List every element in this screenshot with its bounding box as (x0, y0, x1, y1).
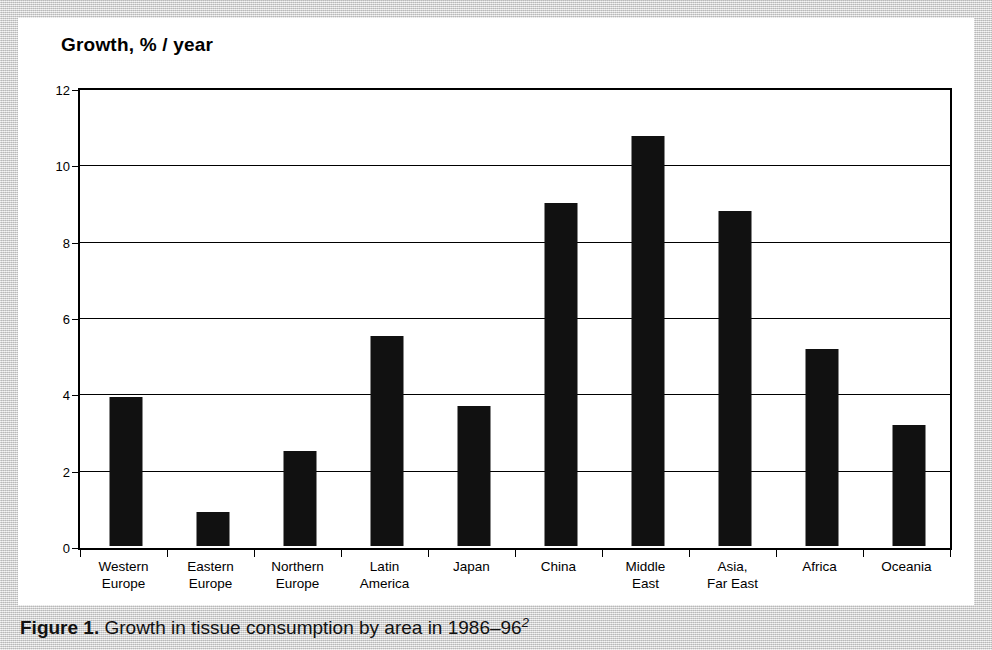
bar[interactable] (544, 203, 577, 546)
x-axis-label-line: Europe (254, 575, 341, 592)
bar-slot (430, 92, 517, 546)
bar-slot (517, 92, 604, 546)
y-tick-label: 0 (63, 541, 70, 556)
y-tick-label: 4 (63, 388, 70, 403)
bars-layer (82, 92, 948, 546)
bar[interactable] (718, 211, 751, 546)
caption-label: Figure 1. (20, 617, 99, 638)
x-tick-mark (515, 550, 516, 557)
x-axis-label-line: Middle (602, 558, 689, 575)
bar[interactable] (892, 425, 925, 546)
x-tick-mark (341, 550, 342, 557)
bar[interactable] (109, 397, 142, 546)
x-tick-mark (80, 550, 81, 557)
x-axis-label-line: America (341, 575, 428, 592)
bar-slot (691, 92, 778, 546)
chart-axis-title: Growth, % / year (61, 34, 213, 56)
x-axis-label-line: East (602, 575, 689, 592)
plot-area (78, 88, 952, 550)
x-axis-label: MiddleEast (602, 558, 689, 592)
bar[interactable] (805, 349, 838, 546)
x-axis-label-line: Oceania (863, 558, 950, 575)
x-axis-label-line: Africa (776, 558, 863, 575)
x-tick-mark (776, 550, 777, 557)
x-tick-mark (689, 550, 690, 557)
x-tick-mark (167, 550, 168, 557)
bar-slot (169, 92, 256, 546)
y-axis: 024681012 (18, 88, 78, 550)
x-axis-label-line: Asia, (689, 558, 776, 575)
x-axis-label: Africa (776, 558, 863, 575)
x-axis-label: NorthernEurope (254, 558, 341, 592)
y-tick-label: 8 (63, 235, 70, 250)
bar-slot (82, 92, 169, 546)
bar-slot (343, 92, 430, 546)
x-axis-label-line: Eastern (167, 558, 254, 575)
bar-slot (778, 92, 865, 546)
x-tick-mark (863, 550, 864, 557)
y-tick-label: 10 (56, 159, 70, 174)
x-tick-mark (602, 550, 603, 557)
bar-slot (865, 92, 952, 546)
x-axis-label: EasternEurope (167, 558, 254, 592)
x-axis-label-line: Japan (428, 558, 515, 575)
x-axis-ticks (78, 550, 952, 558)
x-axis-label-line: Latin (341, 558, 428, 575)
x-axis-label-line: Western (80, 558, 167, 575)
bar[interactable] (631, 136, 664, 546)
x-axis-label: Asia,Far East (689, 558, 776, 592)
y-tick-label: 12 (56, 83, 70, 98)
bar-slot (604, 92, 691, 546)
x-tick-mark (254, 550, 255, 557)
y-tick-label: 2 (63, 464, 70, 479)
x-axis-label-line: Europe (80, 575, 167, 592)
bar[interactable] (457, 406, 490, 546)
x-axis-label: Japan (428, 558, 515, 575)
x-axis-labels: WesternEuropeEasternEuropeNorthernEurope… (78, 558, 952, 604)
figure-container: Growth, % / year 024681012 WesternEurope… (0, 0, 992, 650)
x-axis-label: WesternEurope (80, 558, 167, 592)
x-axis-label: Oceania (863, 558, 950, 575)
caption-text: Growth in tissue consumption by area in … (104, 617, 521, 638)
bar-slot (256, 92, 343, 546)
x-axis-label-line: Far East (689, 575, 776, 592)
bar[interactable] (283, 451, 316, 546)
bar[interactable] (370, 336, 403, 546)
x-axis-label-line: Europe (167, 575, 254, 592)
chart-card: Growth, % / year 024681012 WesternEurope… (18, 18, 974, 605)
x-axis-label-line: Northern (254, 558, 341, 575)
x-axis-label-line: China (515, 558, 602, 575)
figure-caption: Figure 1. Growth in tissue consumption b… (20, 615, 529, 639)
y-tick-label: 6 (63, 312, 70, 327)
caption-superscript: 2 (522, 615, 529, 630)
x-axis-label: LatinAmerica (341, 558, 428, 592)
bar[interactable] (196, 512, 229, 546)
x-tick-mark (428, 550, 429, 557)
x-axis-label: China (515, 558, 602, 575)
x-tick-mark (950, 550, 951, 557)
